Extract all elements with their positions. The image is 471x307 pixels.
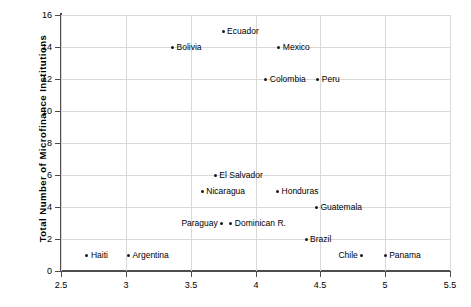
gridline-vertical (450, 15, 451, 271)
data-point-marker (127, 254, 130, 257)
data-point-label: Brazil (310, 235, 331, 244)
data-point-marker (220, 222, 223, 225)
x-tick-label: 4.5 (300, 281, 340, 290)
data-point-marker (214, 174, 217, 177)
data-point-label: Nicaragua (206, 187, 245, 196)
gridline-horizontal (61, 143, 450, 144)
y-tick-label: 14 (8, 43, 52, 52)
y-tick-label: 10 (8, 107, 52, 116)
x-tick-label: 3 (106, 281, 146, 290)
x-tick-mark (385, 272, 386, 277)
data-point-marker (316, 78, 319, 81)
data-point-label: Honduras (282, 187, 319, 196)
data-point-label: Colombia (270, 75, 306, 84)
x-tick-label: 2.5 (41, 281, 81, 290)
x-tick-mark (61, 272, 62, 277)
data-point-marker (229, 222, 232, 225)
plot-area: EcuadorBoliviaMexicoColombiaPeruEl Salva… (61, 15, 450, 271)
data-point-label: Argentina (132, 251, 168, 260)
gridline-horizontal (61, 111, 450, 112)
data-point-label: Dominican R. (235, 219, 286, 228)
data-point-marker (315, 206, 318, 209)
data-point-label: Panama (389, 251, 421, 260)
data-point-marker (360, 254, 363, 257)
gridline-horizontal (61, 47, 450, 48)
gridline-horizontal (61, 79, 450, 80)
data-point-label: Peru (322, 75, 340, 84)
x-tick-mark (256, 272, 257, 277)
y-tick-label: 0 (8, 267, 52, 276)
y-tick-label: 16 (8, 11, 52, 20)
gridline-horizontal (61, 15, 450, 16)
data-point-marker (277, 46, 280, 49)
data-point-label: El Salvador (219, 171, 262, 180)
data-point-label: Haiti (91, 251, 108, 260)
y-tick-label: 8 (8, 139, 52, 148)
y-tick-label: 6 (8, 171, 52, 180)
gridline-horizontal (61, 207, 450, 208)
data-point-label: Guatemala (320, 203, 362, 212)
x-tick-mark (126, 272, 127, 277)
data-point-marker (201, 190, 204, 193)
x-tick-label: 5.5 (430, 281, 470, 290)
y-tick-label: 2 (8, 235, 52, 244)
x-tick-mark (191, 272, 192, 277)
data-point-marker (384, 254, 387, 257)
x-tick-label: 3.5 (171, 281, 211, 290)
data-point-label: Mexico (283, 43, 310, 52)
y-tick-label: 12 (8, 75, 52, 84)
data-point-marker (276, 190, 279, 193)
x-tick-mark (320, 272, 321, 277)
data-point-label: Chile (338, 251, 357, 260)
x-tick-mark (450, 272, 451, 277)
scatter-chart: Total Number of Microfinance Institution… (0, 0, 471, 307)
data-point-label: Paraguay (181, 219, 217, 228)
gridline-horizontal (61, 239, 450, 240)
data-point-label: Ecuador (227, 27, 259, 36)
data-point-marker (85, 254, 88, 257)
data-point-marker (264, 78, 267, 81)
data-point-marker (171, 46, 174, 49)
data-point-marker (305, 238, 308, 241)
data-point-marker (222, 30, 225, 33)
y-tick-label: 4 (8, 203, 52, 212)
data-point-label: Bolivia (177, 43, 202, 52)
x-tick-label: 4 (236, 281, 276, 290)
x-tick-label: 5 (365, 281, 405, 290)
